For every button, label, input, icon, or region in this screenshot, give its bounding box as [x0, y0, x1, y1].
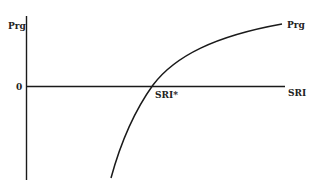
curve-label: Prg: [287, 20, 306, 30]
origin-label: 0: [16, 82, 22, 92]
y-axis-label: Prg: [8, 21, 27, 31]
intercept-label: SRI*: [155, 90, 178, 100]
x-axis-label: SRI: [288, 88, 306, 98]
prg-curve: [111, 24, 282, 178]
diagram-canvas: Prg 0 SRI Prg SRI*: [0, 0, 315, 191]
